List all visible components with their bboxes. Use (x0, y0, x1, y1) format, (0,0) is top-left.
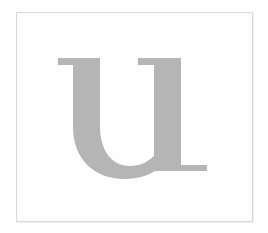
glyph-character-label: u (0, 0, 1, 1)
image-border (16, 12, 253, 222)
letter-u-glyph (17, 13, 254, 223)
image-canvas: u (0, 0, 268, 233)
glyph-container (17, 13, 254, 223)
